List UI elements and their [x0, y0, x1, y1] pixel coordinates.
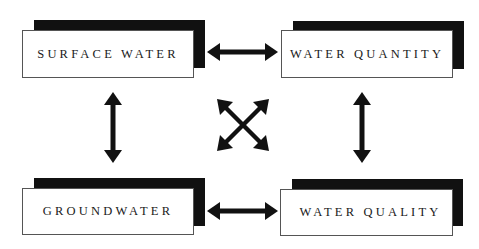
arrows-layer	[0, 0, 479, 249]
double-arrow-vertical-left-icon	[104, 92, 122, 163]
cross-arrows-icon	[217, 99, 269, 151]
double-arrow-horizontal-bottom-icon	[207, 202, 278, 220]
double-arrow-vertical-right-icon	[353, 92, 371, 163]
double-arrow-horizontal-top-icon	[207, 43, 278, 61]
